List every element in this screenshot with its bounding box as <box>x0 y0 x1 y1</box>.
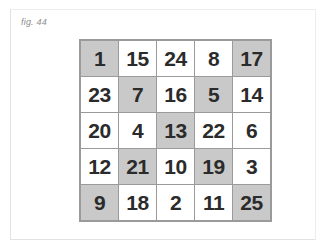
magic-square-row: 122110193 <box>80 149 271 185</box>
magic-square-cell: 7 <box>119 77 157 113</box>
figure-caption: fig. 44 <box>21 17 47 27</box>
magic-square-cell: 25 <box>233 185 272 222</box>
magic-square-cell: 20 <box>80 113 119 149</box>
magic-square-cell: 12 <box>80 149 119 185</box>
magic-square-cell: 6 <box>233 113 272 149</box>
magic-square-cell: 18 <box>119 185 157 222</box>
magic-square-cell: 9 <box>80 185 119 222</box>
magic-square-row: 91821125 <box>80 185 271 222</box>
magic-square-cell: 11 <box>195 185 233 222</box>
magic-square-cell: 24 <box>157 40 195 77</box>
magic-square-cell: 4 <box>119 113 157 149</box>
magic-square-cell: 22 <box>195 113 233 149</box>
magic-square-body: 1152481723716514204132261221101939182112… <box>80 40 271 221</box>
magic-square-row: 20413226 <box>80 113 271 149</box>
magic-square-cell: 15 <box>119 40 157 77</box>
magic-square-cell: 10 <box>157 149 195 185</box>
magic-square-cell: 16 <box>157 77 195 113</box>
magic-square-row: 11524817 <box>80 40 271 77</box>
magic-square-cell: 14 <box>233 77 272 113</box>
magic-square-grid: 1152481723716514204132261221101939182112… <box>79 39 272 222</box>
magic-square-cell: 8 <box>195 40 233 77</box>
magic-square-row: 23716514 <box>80 77 271 113</box>
magic-square-cell: 3 <box>233 149 272 185</box>
magic-square-cell: 23 <box>80 77 119 113</box>
magic-square-cell: 1 <box>80 40 119 77</box>
magic-square-cell: 21 <box>119 149 157 185</box>
magic-square-cell: 5 <box>195 77 233 113</box>
magic-square-cell: 17 <box>233 40 272 77</box>
magic-square-cell: 13 <box>157 113 195 149</box>
magic-square-cell: 19 <box>195 149 233 185</box>
figure-card: fig. 44 11524817237165142041322612211019… <box>10 9 316 240</box>
magic-square-cell: 2 <box>157 185 195 222</box>
